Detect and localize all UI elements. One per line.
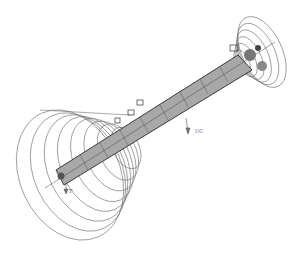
shaft-coil-diagram bbox=[0, 0, 295, 258]
label-uc: UC bbox=[195, 128, 203, 134]
right-ring-cone bbox=[228, 9, 295, 95]
label-t: T bbox=[69, 188, 72, 194]
